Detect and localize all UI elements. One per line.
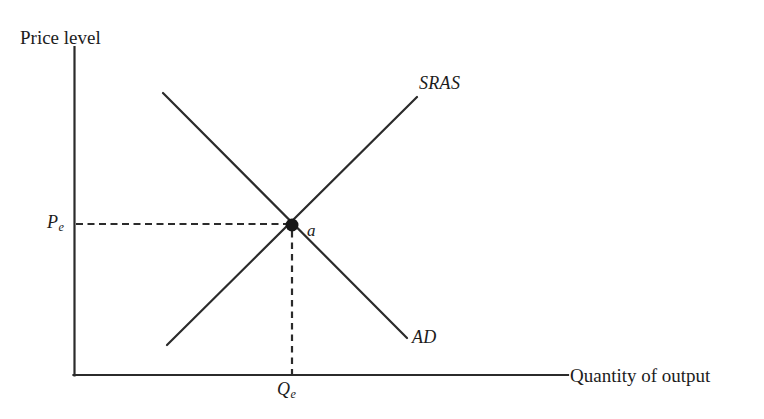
sras-curve-label: SRAS <box>419 74 460 92</box>
equilibrium-quantity-label: Qe <box>277 380 296 401</box>
quantity-symbol: Q <box>277 379 290 399</box>
equilibrium-price-label: Pe <box>47 213 64 234</box>
ad-curve-line <box>163 93 407 338</box>
x-axis-label: Quantity of output <box>570 366 710 385</box>
price-subscript: e <box>59 220 64 234</box>
diagram-canvas <box>0 0 764 419</box>
ad-curve-label: AD <box>412 328 437 346</box>
equilibrium-point-label: a <box>307 222 316 239</box>
y-axis-label: Price level <box>20 28 101 47</box>
equilibrium-point-marker <box>286 219 299 232</box>
quantity-subscript: e <box>291 387 296 401</box>
price-symbol: P <box>47 212 58 232</box>
ad-sras-equilibrium-figure: Price level Quantity of output SRAS AD P… <box>0 0 764 419</box>
